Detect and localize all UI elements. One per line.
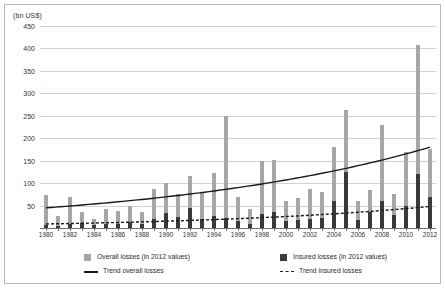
- x-axis-tick: [202, 228, 203, 231]
- legend-label-insured: Insured losses (in 2012 values): [293, 254, 387, 261]
- bar-group: [404, 26, 409, 228]
- bar-group: [356, 26, 361, 228]
- y-axis-tick-label: 450: [23, 23, 35, 30]
- bar-group: [224, 26, 229, 228]
- x-axis-tick: [394, 228, 395, 231]
- bar-group: [68, 26, 73, 228]
- bar-insured-losses: [176, 217, 181, 228]
- bar-group: [200, 26, 205, 228]
- bar-insured-losses: [164, 213, 169, 228]
- legend-swatch-overall-icon: [84, 254, 91, 261]
- x-axis-tick: [58, 228, 59, 231]
- legend-item-trend-insured: Trend insured losses: [280, 268, 362, 275]
- bar-overall-losses: [44, 195, 49, 228]
- y-axis-tick-label: 100: [23, 180, 35, 187]
- legend-label-trend-insured: Trend insured losses: [299, 268, 362, 275]
- x-axis-tick-label: 2010: [399, 232, 413, 239]
- x-axis: 1980198219841986198819901992199419961998…: [40, 228, 436, 244]
- bar-group: [392, 26, 397, 228]
- x-axis-tick: [346, 228, 347, 231]
- bar-group: [308, 26, 313, 228]
- x-axis-tick-label: 1986: [111, 232, 125, 239]
- plot-area: 50100150200250300350400450: [40, 26, 436, 228]
- legend-line-dashed-icon: [280, 268, 294, 275]
- x-axis-tick: [298, 228, 299, 231]
- x-axis-tick: [226, 228, 227, 231]
- bar-group: [416, 26, 421, 228]
- y-axis-tick-label: 250: [23, 112, 35, 119]
- bar-insured-losses: [212, 216, 217, 228]
- bar-group: [368, 26, 373, 228]
- bar-group: [56, 26, 61, 228]
- bar-insured-losses: [428, 197, 433, 228]
- bar-insured-losses: [272, 212, 277, 228]
- plot-inner: 50100150200250300350400450: [40, 26, 436, 228]
- y-axis-tick-label: 150: [23, 157, 35, 164]
- bar-group: [80, 26, 85, 228]
- bar-group: [284, 26, 289, 228]
- bar-insured-losses: [284, 221, 289, 228]
- bar-group: [248, 26, 253, 228]
- legend-label-overall: Overall losses (in 2012 values): [97, 254, 190, 261]
- bar-insured-losses: [392, 215, 397, 228]
- bar-group: [428, 26, 433, 228]
- x-axis-tick: [370, 228, 371, 231]
- x-axis-tick-label: 2004: [327, 232, 341, 239]
- bar-overall-losses: [224, 116, 229, 228]
- bar-group: [344, 26, 349, 228]
- x-axis-tick-label: 2002: [303, 232, 317, 239]
- legend-item-overall-losses: Overall losses (in 2012 values): [84, 254, 190, 261]
- x-axis-tick-label: 2008: [375, 232, 389, 239]
- bar-insured-losses: [308, 219, 313, 228]
- x-axis-tick: [250, 228, 251, 231]
- x-axis-tick-label: 1982: [63, 232, 77, 239]
- bars-group: [40, 26, 436, 228]
- y-axis-tick-label: 200: [23, 135, 35, 142]
- bar-insured-losses: [296, 220, 301, 228]
- legend-swatch-insured-icon: [280, 254, 287, 261]
- chart-container: (bn US$) 50100150200250300350400450 1980…: [0, 0, 445, 288]
- legend-item-trend-overall: Trend overall losses: [84, 268, 164, 275]
- x-axis-tick-label: 1984: [87, 232, 101, 239]
- bar-insured-losses: [200, 219, 205, 228]
- x-axis-tick-label: 1998: [255, 232, 269, 239]
- x-axis-tick: [154, 228, 155, 231]
- bar-group: [320, 26, 325, 228]
- y-axis-tick-label: 400: [23, 45, 35, 52]
- bar-insured-losses: [188, 208, 193, 228]
- bar-group: [164, 26, 169, 228]
- bar-group: [44, 26, 49, 228]
- bar-insured-losses: [416, 174, 421, 228]
- legend-item-insured-losses: Insured losses (in 2012 values): [280, 254, 387, 261]
- x-axis-tick: [322, 228, 323, 231]
- bar-group: [212, 26, 217, 228]
- x-axis-tick: [274, 228, 275, 231]
- x-axis-tick-label: 1980: [39, 232, 53, 239]
- chart-legend: Overall losses (in 2012 values) Trend ov…: [40, 252, 436, 280]
- bar-group: [176, 26, 181, 228]
- y-axis-tick-label: 50: [27, 202, 35, 209]
- x-axis-tick: [178, 228, 179, 231]
- x-axis-tick-label: 1992: [183, 232, 197, 239]
- bar-group: [260, 26, 265, 228]
- bar-insured-losses: [224, 218, 229, 228]
- bar-insured-losses: [236, 221, 241, 228]
- x-axis-tick-label: 1994: [207, 232, 221, 239]
- x-axis-tick-label: 1988: [135, 232, 149, 239]
- x-axis-tick: [130, 228, 131, 231]
- bar-group: [128, 26, 133, 228]
- bar-group: [188, 26, 193, 228]
- bar-insured-losses: [368, 212, 373, 228]
- x-axis-tick-label: 2006: [351, 232, 365, 239]
- x-axis-tick: [82, 228, 83, 231]
- bar-group: [332, 26, 337, 228]
- bar-group: [272, 26, 277, 228]
- x-axis-tick: [418, 228, 419, 231]
- bar-insured-losses: [344, 172, 349, 228]
- bar-insured-losses: [332, 201, 337, 228]
- bar-group: [104, 26, 109, 228]
- bar-insured-losses: [380, 201, 385, 228]
- bar-insured-losses: [356, 220, 361, 228]
- y-axis-unit-label: (bn US$): [13, 12, 42, 19]
- bar-insured-losses: [404, 206, 409, 228]
